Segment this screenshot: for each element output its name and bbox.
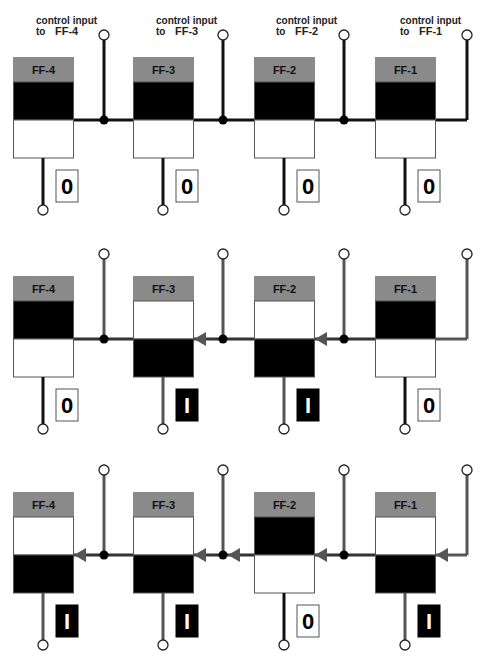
flipflop-upper-half [255, 82, 315, 120]
flipflop-ff-4: FF-40 [13, 276, 78, 434]
control-label-to: to [400, 26, 409, 37]
flipflop-label: FF-1 [394, 283, 417, 295]
flipflop-lower-half [134, 555, 194, 593]
output-terminal[interactable] [38, 424, 48, 434]
junction-dot [100, 116, 109, 125]
control-terminal[interactable] [99, 465, 109, 475]
flipflop-label: FF-4 [32, 64, 56, 76]
flipflop-lower-half [14, 555, 74, 593]
junction-dot [100, 551, 109, 560]
control-label-ff: FF-4 [55, 25, 79, 37]
output-terminal[interactable] [279, 205, 289, 215]
register-row-second-state: FF-40FF-3IFF-2IFF-10 [13, 249, 472, 434]
control-label-ff1: control input to FF-1 [400, 15, 462, 37]
flipflop-ff-2: FF-2I [254, 276, 327, 434]
control-terminal[interactable] [218, 249, 228, 259]
flipflop-upper-half [376, 82, 436, 120]
control-terminal-ff1[interactable] [462, 249, 472, 259]
bit-value: 0 [423, 174, 435, 199]
control-terminal[interactable] [339, 249, 349, 259]
junction-dot [219, 335, 228, 344]
flipflop-label: FF-3 [152, 499, 175, 511]
bit-value: I [184, 609, 190, 634]
control-terminal[interactable] [99, 30, 109, 40]
flipflop-label: FF-3 [152, 283, 175, 295]
junction-dot [219, 116, 228, 125]
flipflop-lower-half [255, 120, 315, 158]
control-terminal[interactable] [218, 30, 228, 40]
flipflop-upper-half [376, 517, 436, 555]
output-terminal[interactable] [158, 205, 168, 215]
flipflop-upper-half [255, 517, 315, 555]
flipflop-upper-half [14, 82, 74, 120]
flipflop-label: FF-1 [394, 64, 417, 76]
flipflop-lower-half [376, 339, 436, 377]
toggle-arrow-icon [436, 548, 448, 562]
flipflop-lower-half [376, 555, 436, 593]
control-label-to: to [156, 26, 165, 37]
toggle-arrow-icon [315, 332, 327, 346]
output-terminal[interactable] [279, 640, 289, 650]
flipflop-ff-4: FF-4I [13, 492, 86, 650]
output-terminal[interactable] [158, 424, 168, 434]
shift-register-diagram: control input to FF-4 control input to F… [0, 0, 487, 671]
toggle-arrow-icon [194, 548, 206, 562]
register-row-initial-state: FF-40FF-30FF-20FF-10 [13, 30, 472, 215]
flipflop-upper-half [14, 517, 74, 555]
flipflop-lower-half [255, 339, 315, 377]
flipflop-upper-half [14, 301, 74, 339]
bit-value: I [426, 609, 432, 634]
output-terminal[interactable] [400, 205, 410, 215]
bit-value: I [64, 609, 70, 634]
control-label-ff: FF-1 [419, 25, 442, 37]
output-terminal[interactable] [158, 640, 168, 650]
flipflop-ff-4: FF-40 [13, 57, 78, 215]
flipflop-label: FF-4 [32, 499, 56, 511]
carry-arrow-icon [228, 548, 240, 562]
control-terminal-ff1[interactable] [462, 30, 472, 40]
output-terminal[interactable] [279, 424, 289, 434]
flipflop-upper-half [134, 82, 194, 120]
flipflop-label: FF-3 [152, 64, 175, 76]
flipflop-lower-half [134, 339, 194, 377]
control-label-ff3: control input to FF-3 [156, 15, 218, 37]
junction-dot [340, 335, 349, 344]
output-terminal[interactable] [38, 640, 48, 650]
toggle-arrow-icon [194, 332, 206, 346]
control-label-ff: FF-2 [295, 25, 318, 37]
register-rows: FF-40FF-30FF-20FF-10FF-40FF-3IFF-2IFF-10… [13, 30, 472, 650]
flipflop-ff-2: FF-20 [254, 57, 319, 215]
bit-value: 0 [423, 393, 435, 418]
flipflop-lower-half [14, 339, 74, 377]
control-terminal[interactable] [99, 249, 109, 259]
flipflop-lower-half [376, 120, 436, 158]
output-terminal[interactable] [400, 424, 410, 434]
bit-value: I [184, 393, 190, 418]
control-label-ff: FF-3 [175, 25, 198, 37]
flipflop-ff-1: FF-1I [375, 492, 448, 650]
control-label-to: to [36, 26, 45, 37]
control-terminal[interactable] [339, 30, 349, 40]
control-label-to: to [276, 26, 285, 37]
junction-dot [219, 551, 228, 560]
output-terminal[interactable] [400, 640, 410, 650]
flipflop-ff-3: FF-3I [133, 492, 206, 650]
flipflop-ff-3: FF-3I [133, 276, 206, 434]
junction-dot [340, 551, 349, 560]
control-terminal-ff1[interactable] [462, 465, 472, 475]
bit-value: 0 [302, 174, 314, 199]
flipflop-label: FF-4 [32, 283, 56, 295]
register-row-third-state: FF-4IFF-3IFF-20FF-1I [13, 465, 472, 650]
control-terminal[interactable] [218, 465, 228, 475]
output-terminal[interactable] [38, 205, 48, 215]
flipflop-upper-half [134, 301, 194, 339]
flipflop-label: FF-1 [394, 499, 417, 511]
junction-dot [100, 335, 109, 344]
control-terminal[interactable] [339, 465, 349, 475]
flipflop-ff-2: FF-20 [254, 492, 327, 650]
flipflop-label: FF-2 [273, 64, 296, 76]
flipflop-upper-half [134, 517, 194, 555]
flipflop-upper-half [255, 301, 315, 339]
control-label-ff4: control input to FF-4 [36, 15, 98, 37]
flipflop-lower-half [255, 555, 315, 593]
